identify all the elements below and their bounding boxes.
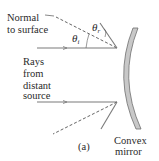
label-mirror-line1: Convex xyxy=(114,135,147,146)
reflected-ray-top xyxy=(100,23,117,48)
label-mirror-line2: mirror xyxy=(115,146,142,157)
convex-mirror xyxy=(124,28,141,129)
label-rays-line4: source xyxy=(23,90,51,101)
label-rays-line1: Rays xyxy=(23,56,44,67)
label-normal-line2: to surface xyxy=(7,24,48,35)
panel-label: (a) xyxy=(78,141,90,153)
reflected-ray-bottom xyxy=(101,102,117,129)
label-theta-i: θi xyxy=(72,32,79,46)
label-theta-r: θr xyxy=(92,21,100,35)
label-normal-line1: Normal xyxy=(7,12,39,23)
label-rays-line2: from xyxy=(23,68,43,79)
angle-arc-incident xyxy=(86,34,89,48)
convex-mirror-diagram: Normal to surface θi θr Rays from distan… xyxy=(0,0,159,161)
normal-leader xyxy=(45,15,54,16)
